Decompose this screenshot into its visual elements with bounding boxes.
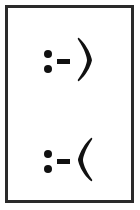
eye-dot-lower	[44, 65, 52, 73]
hyphen-nose-icon	[57, 59, 70, 64]
emoticon-smiley: :-)	[8, 34, 131, 86]
eye-dot-upper	[44, 50, 52, 58]
close-paren-mouth-icon	[75, 36, 95, 82]
colon-eyes-icon	[44, 33, 52, 87]
bordered-frame: :-) :-(	[5, 5, 134, 203]
colon-eyes-icon	[44, 133, 52, 187]
eye-dot-upper	[44, 150, 52, 158]
hyphen-nose-icon	[57, 159, 70, 164]
open-paren-mouth-icon	[75, 136, 95, 182]
emoticon-frowny: :-(	[8, 134, 131, 186]
eye-dot-lower	[44, 165, 52, 173]
page-canvas: :-) :-(	[0, 0, 140, 210]
